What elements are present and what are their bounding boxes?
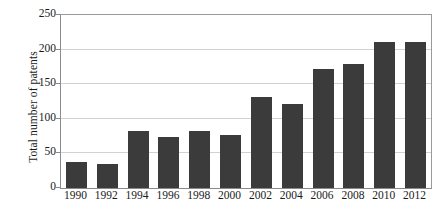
x-tick-label: 2002 bbox=[249, 190, 272, 202]
y-tick-label: 0 bbox=[22, 181, 56, 193]
bar bbox=[128, 131, 149, 188]
bar bbox=[374, 42, 395, 188]
y-tick-label: 100 bbox=[22, 112, 56, 124]
x-axis-tick-labels: 1990199219941996199820002002200420062008… bbox=[60, 190, 430, 210]
bar bbox=[251, 97, 272, 188]
bar bbox=[282, 104, 303, 188]
bar bbox=[405, 42, 426, 188]
bar bbox=[220, 135, 241, 188]
y-tick-label: 50 bbox=[22, 147, 56, 159]
y-tick-label: 250 bbox=[22, 8, 56, 20]
y-axis-tick-labels: 050100150200250 bbox=[0, 14, 56, 187]
x-tick-label: 2010 bbox=[372, 190, 395, 202]
bar bbox=[189, 131, 210, 188]
x-tick-label: 2006 bbox=[311, 190, 334, 202]
x-tick-label: 2012 bbox=[403, 190, 426, 202]
x-tick-label: 1990 bbox=[64, 190, 87, 202]
x-tick-label: 2000 bbox=[218, 190, 241, 202]
bar bbox=[66, 162, 87, 188]
bar bbox=[313, 69, 334, 188]
x-tick-label: 1992 bbox=[95, 190, 118, 202]
patents-bar-chart: Total number of patents 050100150200250 … bbox=[0, 0, 444, 214]
y-tick-label: 200 bbox=[22, 43, 56, 55]
x-tick-label: 1996 bbox=[156, 190, 179, 202]
plot-inner bbox=[61, 15, 431, 188]
bar bbox=[97, 164, 118, 188]
x-tick-label: 1994 bbox=[126, 190, 149, 202]
x-tick-label: 1998 bbox=[187, 190, 210, 202]
bar bbox=[343, 64, 364, 188]
x-tick-label: 2008 bbox=[341, 190, 364, 202]
y-tick-label: 150 bbox=[22, 77, 56, 89]
bar bbox=[158, 137, 179, 188]
plot-area bbox=[60, 14, 432, 189]
x-tick-label: 2004 bbox=[280, 190, 303, 202]
